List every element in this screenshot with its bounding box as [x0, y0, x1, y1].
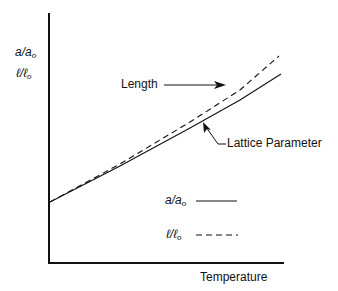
x-axis-label: Temperature — [200, 270, 267, 284]
y-axis-label-l: ℓ/ℓo — [16, 66, 32, 81]
y-axis-label-a: a/ao — [15, 45, 36, 60]
legend-label-a: a/ao — [165, 193, 186, 208]
legend-label-l: ℓ/ℓo — [166, 227, 182, 242]
lattice-arrowhead-icon — [203, 122, 211, 133]
lattice-arrow — [206, 127, 226, 144]
series-length-line — [50, 56, 279, 202]
annotation-lattice-parameter: Lattice Parameter — [227, 136, 322, 150]
annotation-length: Length — [121, 77, 158, 91]
